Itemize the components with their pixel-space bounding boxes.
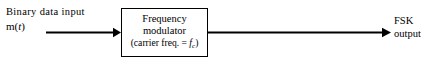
fsk-output-label-line2: output: [394, 27, 435, 40]
fsk-modulator-block-diagram: Binary data input m(t) Frequency modulat…: [0, 0, 435, 64]
input-signal-expression: m(t): [6, 19, 116, 34]
carrier-freq-suffix: ): [195, 37, 198, 48]
binary-data-input-label: Binary data input: [6, 4, 116, 19]
input-label-group: Binary data input m(t): [6, 4, 116, 34]
block-label-line2: modulator: [143, 25, 186, 37]
signal-expr-suffix: ): [21, 20, 25, 32]
fsk-output-label-line1: FSK: [394, 14, 435, 27]
frequency-modulator-block-text: Frequency modulator (carrier freq. = fc): [121, 10, 208, 55]
block-label-line1: Frequency: [142, 13, 186, 25]
signal-expr-prefix: m(: [6, 20, 18, 32]
output-arrow: [208, 28, 391, 37]
output-arrow-head-icon: [382, 28, 391, 37]
block-label-carrier-freq: (carrier freq. = fc): [131, 37, 199, 52]
output-label-group: FSK output: [394, 14, 435, 40]
carrier-freq-prefix: (carrier freq. =: [131, 37, 190, 48]
